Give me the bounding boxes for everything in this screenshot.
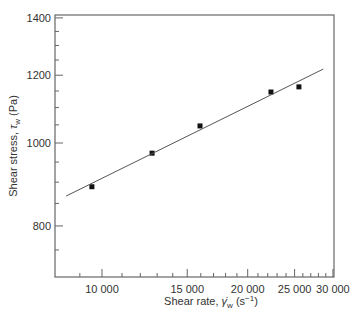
y-tick-label: 1200 bbox=[27, 69, 51, 81]
data-point-marker bbox=[198, 123, 203, 128]
x-tick-label: 10 000 bbox=[85, 283, 119, 295]
x-axis-label: Shear rate, γ̇w (s−1) bbox=[164, 294, 258, 310]
y-label-unit: (Pa) bbox=[7, 95, 19, 119]
x-tick-label: 25 000 bbox=[278, 283, 312, 295]
x-tick-label: 15 000 bbox=[170, 283, 204, 295]
plot-frame bbox=[55, 15, 334, 277]
plot-border bbox=[55, 15, 334, 277]
fit-line bbox=[66, 69, 323, 196]
shear-stress-vs-shear-rate-chart: 10 00015 00020 00025 00030 000 800100012… bbox=[0, 0, 361, 319]
y-label-text: Shear stress, bbox=[7, 129, 19, 197]
data-point-marker bbox=[296, 84, 301, 89]
y-tick-label: 1400 bbox=[27, 12, 51, 24]
data-series bbox=[66, 69, 323, 196]
x-tick-label: 30 000 bbox=[316, 283, 350, 295]
data-point-marker bbox=[89, 184, 94, 189]
y-axis-label: Shear stress, τw (Pa) bbox=[7, 95, 22, 197]
y-tick-label: 1000 bbox=[27, 137, 51, 149]
y-axis-ticks: 800100012001400 bbox=[27, 12, 63, 250]
y-tick-label: 800 bbox=[33, 220, 51, 232]
x-label-unit-close: ) bbox=[254, 295, 258, 307]
x-axis-ticks: 10 00015 00020 00025 00030 000 bbox=[80, 269, 350, 295]
x-label-unit: (s bbox=[233, 295, 246, 307]
x-label-text: Shear rate, bbox=[164, 295, 221, 307]
